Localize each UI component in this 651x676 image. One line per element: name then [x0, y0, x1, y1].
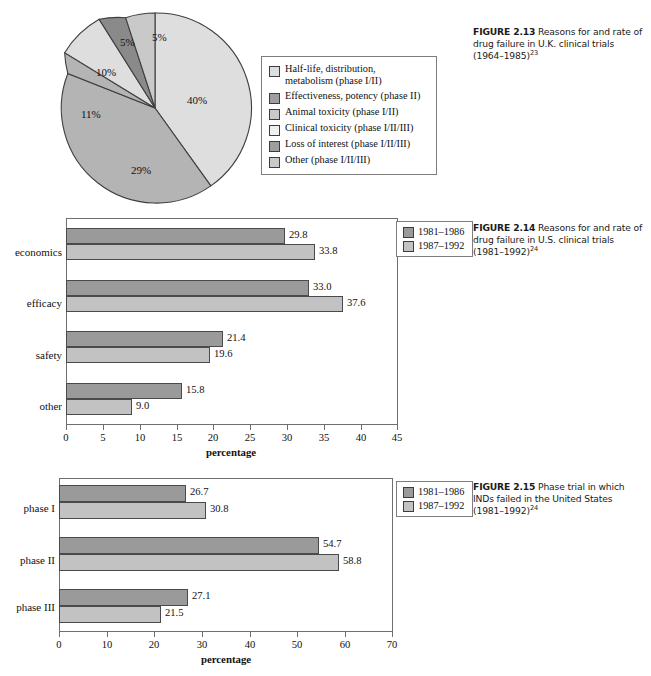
figure-caption-2-15-ref: 24: [530, 504, 538, 512]
bar-phase-i-1981: [59, 485, 186, 502]
legend-label-2-15-1981-1986: 1981–1986: [418, 486, 464, 498]
figure-caption-2-14: FIGURE 2.14 Reasons for and rate of drug…: [473, 222, 645, 259]
legend-swatch-2-15-1987-1992: [403, 501, 414, 512]
bar-phase-i-1987: [59, 502, 206, 519]
bar-phase-iii-1987: [59, 606, 161, 623]
value-label-phase-i-1987: 30.8: [210, 503, 229, 514]
x2-tick-50: [297, 632, 298, 637]
figure-caption-2-15-label: FIGURE 2.15: [473, 481, 535, 492]
legend-item-2-15-1987-1992[interactable]: 1987–1992: [403, 500, 466, 512]
x2-ticklabel-60: 60: [335, 639, 355, 650]
x2-ticklabel-10: 10: [97, 639, 117, 650]
x-axis-title-2-15: percentage: [161, 653, 291, 665]
x2-ticklabel-20: 20: [144, 639, 164, 650]
value-label-phase-iii-1981: 27.1: [192, 590, 211, 601]
category-label-phase-i: phase I: [0, 502, 55, 514]
bar-chart-figure-2-15: phase I phase II phase III 26.7 30.8 54.…: [0, 0, 470, 676]
bar-phase-ii-1987: [59, 554, 339, 571]
figure-caption-2-13-ref: 23: [530, 49, 538, 57]
x2-tick-60: [345, 632, 346, 637]
bar-phase-ii-1981: [59, 537, 319, 554]
value-label-phase-ii-1981: 54.7: [323, 538, 342, 549]
x2-tick-30: [202, 632, 203, 637]
legend-label-2-15-1987-1992: 1987–1992: [418, 500, 464, 512]
x2-tick-0: [59, 632, 60, 637]
bar-phase-iii-1981: [59, 589, 188, 606]
x2-ticklabel-40: 40: [240, 639, 260, 650]
value-label-phase-ii-1987: 58.8: [343, 555, 362, 566]
x2-tick-20: [154, 632, 155, 637]
x2-ticklabel-50: 50: [287, 639, 307, 650]
legend-item-2-15-1981-1986[interactable]: 1981–1986: [403, 486, 466, 498]
x2-tick-10: [107, 632, 108, 637]
figure-caption-2-13-label: FIGURE 2.13: [473, 26, 535, 37]
legend-swatch-2-15-1981-1986: [403, 487, 414, 498]
x2-ticklabel-0: 0: [49, 639, 69, 650]
x2-ticklabel-70: 70: [382, 639, 402, 650]
value-label-phase-i-1981: 26.7: [190, 486, 209, 497]
x2-tick-70: [392, 632, 393, 637]
x2-tick-40: [250, 632, 251, 637]
category-label-phase-iii: phase III: [0, 601, 55, 613]
category-label-phase-ii: phase II: [0, 554, 55, 566]
figure-caption-2-14-label: FIGURE 2.14: [473, 222, 535, 233]
figure-caption-2-13: FIGURE 2.13 Reasons for and rate of drug…: [473, 26, 645, 63]
bar-legend-2-15: 1981–1986 1987–1992: [396, 481, 473, 517]
figure-caption-2-14-ref: 24: [530, 245, 538, 253]
figure-caption-2-15: FIGURE 2.15 Phase trial in which INDs fa…: [473, 481, 645, 518]
x2-ticklabel-30: 30: [192, 639, 212, 650]
value-label-phase-iii-1987: 21.5: [165, 607, 184, 618]
